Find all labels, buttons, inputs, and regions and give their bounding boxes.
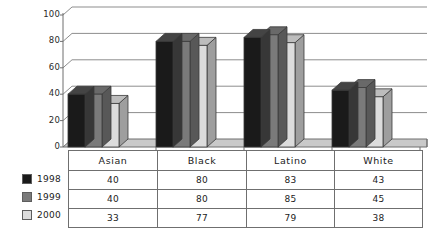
legend-swatch-icon <box>22 174 32 184</box>
bar-1998-black <box>156 33 182 147</box>
table-cell: 83 <box>247 171 335 190</box>
legend-item-label: 1998 <box>37 174 61 184</box>
legend-item-label: 1999 <box>37 192 61 202</box>
y-tick-label: 0 <box>34 142 60 151</box>
y-tick-label: 100 <box>34 10 60 19</box>
column-header-black: Black <box>158 151 247 171</box>
table-cell: 40 <box>69 171 158 190</box>
chart-figure: 100806040200 1998 1999 2000 Asian Black … <box>0 0 447 228</box>
y-tick-label: 80 <box>34 36 60 45</box>
column-header-white: White <box>335 151 423 171</box>
y-tick-label: 40 <box>34 89 60 98</box>
table-cell: 79 <box>247 209 335 228</box>
table-cell: 85 <box>247 190 335 209</box>
legend-item-1998[interactable]: 1998 <box>22 169 68 188</box>
table-cell: 80 <box>158 171 247 190</box>
table-row: 40 80 83 43 <box>69 171 423 190</box>
column-header-asian: Asian <box>69 151 158 171</box>
bar-1998-asian <box>68 86 94 147</box>
legend-item-1999[interactable]: 1999 <box>22 188 68 206</box>
table-cell: 43 <box>335 171 423 190</box>
y-tick-label: 20 <box>34 116 60 125</box>
column-header-latino: Latino <box>247 151 335 171</box>
axis-lines <box>60 13 63 147</box>
table-cell: 45 <box>335 190 423 209</box>
table-cell: 80 <box>158 190 247 209</box>
table-cell: 38 <box>335 209 423 228</box>
table-cell: 40 <box>69 190 158 209</box>
data-table-wrapper: Asian Black Latino White 40 80 83 43 40 … <box>68 150 418 228</box>
table-header-row: Asian Black Latino White <box>69 151 423 171</box>
bar-1998-latino <box>244 29 270 147</box>
table-cell: 33 <box>69 209 158 228</box>
plot-area: 100806040200 <box>0 0 447 160</box>
table-cell: 77 <box>158 209 247 228</box>
legend-item-2000[interactable]: 2000 <box>22 206 68 224</box>
chart-legend: 1998 1999 2000 <box>22 169 68 224</box>
y-tick-label: 60 <box>34 63 60 72</box>
table-row: 40 80 85 45 <box>69 190 423 209</box>
legend-swatch-icon <box>22 192 32 202</box>
legend-swatch-icon <box>22 210 32 220</box>
y-axis-tick-labels: 100806040200 <box>30 0 60 160</box>
bar-1998-white <box>332 82 358 147</box>
table-row: 33 77 79 38 <box>69 209 423 228</box>
bar-series-group <box>68 27 392 147</box>
chart-canvas <box>0 0 447 160</box>
legend-item-label: 2000 <box>37 210 61 220</box>
data-table: Asian Black Latino White 40 80 83 43 40 … <box>68 150 423 228</box>
